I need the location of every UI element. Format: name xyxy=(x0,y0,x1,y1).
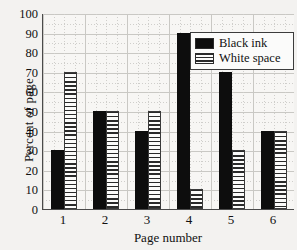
bar-chart: Percent of page 0102030405060708090100 1… xyxy=(0,0,297,250)
bar-white-space xyxy=(106,111,119,209)
bar-group xyxy=(261,131,287,209)
bar-group xyxy=(219,72,245,209)
y-axis-tick-label: 60 xyxy=(12,86,38,99)
x-axis-tick-label: 1 xyxy=(48,212,78,228)
legend-item-white-space: White space xyxy=(195,51,289,66)
y-axis-tick-label: 20 xyxy=(12,165,38,178)
legend-swatch-black-ink xyxy=(195,38,214,49)
bar-black-ink xyxy=(261,131,274,209)
x-axis-tick-label: 5 xyxy=(216,212,246,228)
bar-black-ink xyxy=(177,33,190,209)
legend-item-black-ink: Black ink xyxy=(195,36,289,51)
bar-black-ink xyxy=(51,150,64,209)
x-axis-tick-label: 6 xyxy=(258,212,288,228)
gridline-vertical xyxy=(169,14,170,209)
bar-group xyxy=(93,111,119,209)
y-axis-tick-label: 100 xyxy=(12,8,38,21)
gridline-vertical xyxy=(127,14,128,209)
y-axis-tick-label: 80 xyxy=(12,47,38,60)
bar-white-space xyxy=(232,150,245,209)
bar-white-space xyxy=(64,72,77,209)
y-axis-tick-label: 70 xyxy=(12,67,38,80)
legend-label-black-ink: Black ink xyxy=(219,37,267,50)
bar-black-ink xyxy=(219,72,232,209)
y-axis-tick-label: 90 xyxy=(12,28,38,41)
x-axis-tick-labels: 123456 xyxy=(42,212,294,232)
legend-swatch-white-space xyxy=(195,53,214,64)
bar-white-space xyxy=(148,111,161,209)
x-axis-tick-label: 2 xyxy=(90,212,120,228)
y-axis-tick-label: 50 xyxy=(12,106,38,119)
y-axis-tick-label: 10 xyxy=(12,184,38,197)
y-axis-tick-label: 30 xyxy=(12,145,38,158)
gridline-vertical xyxy=(43,14,44,209)
bar-white-space xyxy=(274,131,287,209)
bar-white-space xyxy=(190,189,203,209)
chart-legend: Black ink White space xyxy=(190,32,294,70)
x-axis-title: Page number xyxy=(42,230,294,246)
x-axis-tick-label: 4 xyxy=(174,212,204,228)
y-axis-tick-label: 0 xyxy=(12,204,38,217)
bar-black-ink xyxy=(93,111,106,209)
bar-group xyxy=(135,111,161,209)
x-axis-tick-label: 3 xyxy=(132,212,162,228)
y-axis-tick-label: 40 xyxy=(12,126,38,139)
legend-label-white-space: White space xyxy=(219,52,280,65)
y-axis-tick-labels: 0102030405060708090100 xyxy=(10,0,38,250)
bar-black-ink xyxy=(135,131,148,209)
bar-group xyxy=(51,72,77,209)
gridline-vertical xyxy=(85,14,86,209)
